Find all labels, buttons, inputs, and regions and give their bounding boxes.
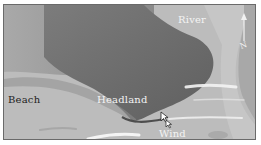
label-wind: Wind [159, 129, 186, 139]
wave-streak [186, 86, 236, 88]
map-illustration [4, 5, 256, 140]
map-frame: River Headland Beach Wind N [3, 4, 256, 140]
label-beach: Beach [8, 95, 40, 105]
label-river: River [178, 15, 206, 25]
label-headland: Headland [97, 95, 148, 105]
wave-shadow [208, 131, 228, 139]
wave-streak [194, 99, 244, 100]
